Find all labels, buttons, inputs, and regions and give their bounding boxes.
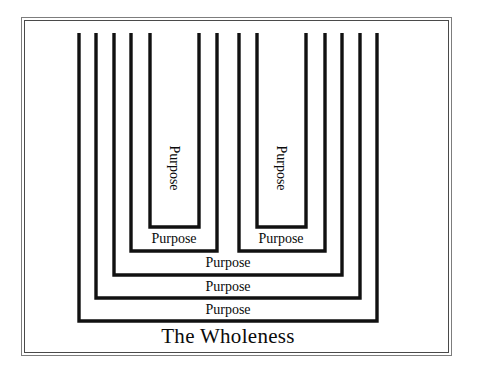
u-path-level-2-left [131,33,217,251]
purpose-label-level-2-left: Purpose [151,232,196,246]
u-path-level-1-right [257,33,306,227]
purpose-label-vertical-right: Purpose [274,145,288,190]
purpose-label-level-4: Purpose [205,280,250,294]
u-path-level-3 [114,33,342,275]
u-path-level-2-right [239,33,325,251]
purpose-label-level-2-right: Purpose [258,232,303,246]
purpose-label-vertical-left: Purpose [167,145,181,190]
purpose-label-level-5: Purpose [205,303,250,317]
u-path-level-1-left [150,33,199,227]
purpose-label-level-3: Purpose [205,256,250,270]
wholeness-label: The Wholeness [161,326,295,347]
diagram-canvas: Purpose Purpose Purpose Purpose Purpose … [0,0,478,371]
u-path-level-5 [79,33,377,321]
